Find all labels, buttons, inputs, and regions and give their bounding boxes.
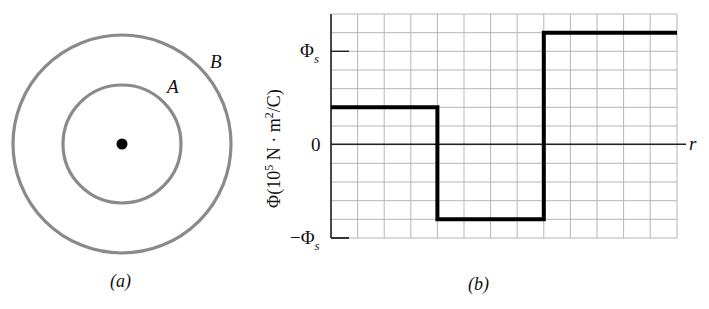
tick-label-zero: 0 xyxy=(311,134,321,155)
figure-b: Φs 0 −Φs r Φ(105 N · m2/C) (b) xyxy=(262,14,697,295)
point-charge-icon xyxy=(117,139,128,150)
x-axis-label: r xyxy=(689,133,697,154)
shell-a-label: A xyxy=(165,76,179,97)
shell-b-label: B xyxy=(210,51,222,72)
figure-a: A B (a) xyxy=(13,35,231,292)
caption-a: (a) xyxy=(110,271,131,292)
tick-label-phi-s: Φs xyxy=(300,40,319,66)
y-axis-label: Φ(105 N · m2/C) xyxy=(262,89,285,208)
caption-b: (b) xyxy=(468,274,489,295)
chart-grid xyxy=(331,14,677,238)
figure: A B (a) xyxy=(0,0,709,309)
tick-label-minus-phi-s: −Φs xyxy=(290,227,320,253)
